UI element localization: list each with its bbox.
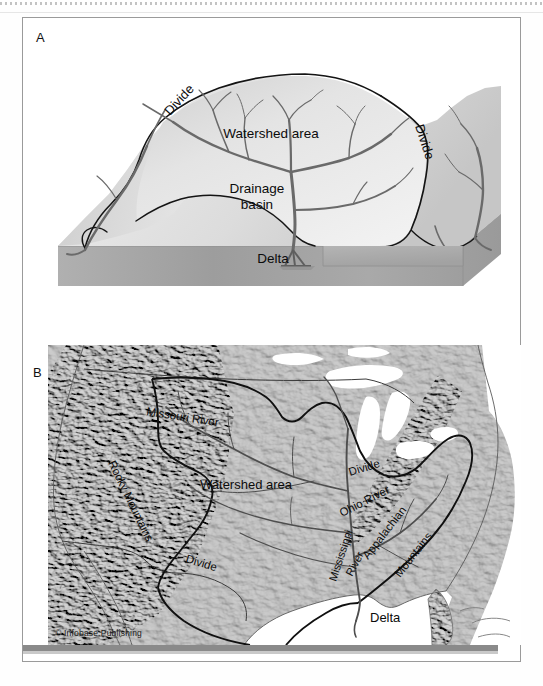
- scan-top-rule: [0, 12, 543, 13]
- copyright-notice: © Infobase Publishing: [55, 628, 142, 638]
- label-delta-map: Delta: [370, 610, 401, 625]
- scan-dotted-artifact: [0, 2, 543, 5]
- panel-b-letter: B: [33, 365, 42, 380]
- panel-a-block-diagram: Watershed area Drainage basin Delta Divi…: [23, 18, 520, 318]
- label-delta-a: Delta: [257, 251, 289, 266]
- label-watershed-area-map: Watershed area: [200, 477, 293, 492]
- figure-bottom-bar-shadow: [23, 651, 498, 654]
- figure-page: Watershed area Drainage basin Delta Divi…: [0, 0, 543, 686]
- panel-b-relief-map: Missouri River Rocky Mountains Watershed…: [48, 345, 521, 645]
- label-drainage-a: Drainage: [230, 181, 285, 196]
- label-watershed-area-a: Watershed area: [223, 126, 319, 141]
- panel-a-letter: A: [36, 30, 45, 45]
- label-basin-a: basin: [241, 197, 273, 212]
